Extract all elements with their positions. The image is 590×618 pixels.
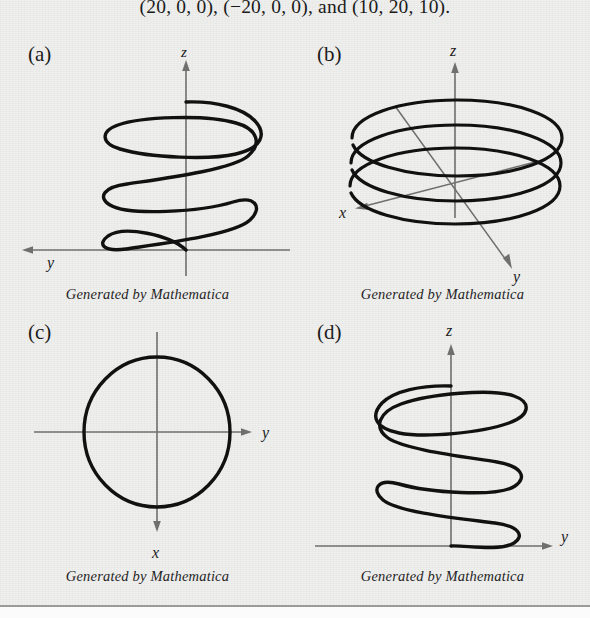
- panel-d-z-label: z: [445, 322, 453, 339]
- page-bottom-strip: [0, 607, 590, 618]
- problem-text: (20, 0, 0), (−20, 0, 0), and (10, 20, 10…: [0, 0, 590, 18]
- panel-b-caption: Generated by Mathematica: [295, 286, 590, 303]
- panel-c-caption: Generated by Mathematica: [0, 568, 295, 585]
- panel-a-z-axis: [182, 60, 190, 276]
- panel-b-z-label: z: [449, 42, 457, 59]
- panel-d-y-label: y: [559, 528, 569, 546]
- panel-a-y-label: y: [47, 254, 54, 272]
- panel-c-y-label: y: [260, 424, 270, 442]
- panel-a-y-axis: [22, 246, 290, 254]
- panel-c-y-axis: [34, 428, 252, 436]
- panel-b-curve: [350, 100, 562, 224]
- panel-a-caption: Generated by Mathematica: [0, 286, 295, 303]
- panel-d-y-axis: [315, 542, 553, 550]
- panel-a-plot: [0, 38, 295, 288]
- panel-b: (b): [295, 38, 590, 308]
- panel-a-curve: [103, 102, 262, 250]
- panel-c: (c) y x Generated by Mathematica: [0, 310, 295, 600]
- panel-d-plot: y z: [295, 310, 590, 575]
- panel-d: (d) y z Generated by Mathematica: [295, 310, 590, 600]
- panel-c-x-label: x: [151, 544, 159, 561]
- panel-b-y-label: y: [511, 268, 521, 286]
- panel-d-caption: Generated by Mathematica: [295, 568, 590, 585]
- panel-b-z-axis: [451, 62, 459, 218]
- figure-page: (20, 0, 0), (−20, 0, 0), and (10, 20, 10…: [0, 0, 590, 618]
- panel-c-plot: y x: [0, 310, 295, 575]
- panel-b-y-axis: [395, 106, 512, 269]
- panel-a-z-label: z: [181, 44, 187, 61]
- panel-a: (a) Generated by Mathematica: [0, 38, 295, 308]
- panel-b-plot: x y z: [295, 38, 590, 288]
- panel-b-x-label: x: [338, 204, 346, 221]
